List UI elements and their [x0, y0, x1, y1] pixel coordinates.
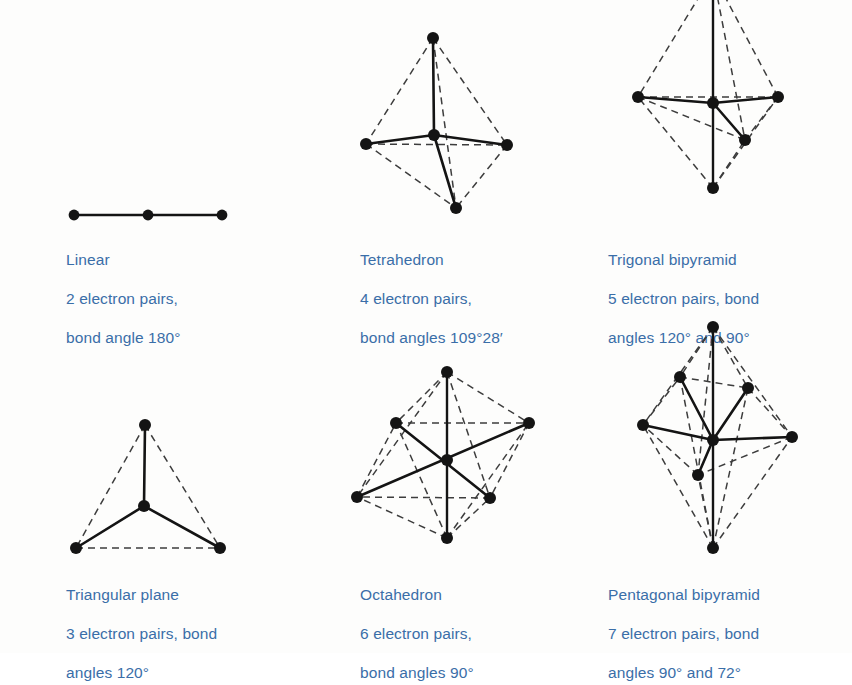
pbp-vertex-equatorial-front	[692, 469, 704, 481]
pbp-vertex-center	[707, 434, 719, 446]
caption-line-2: 7 electron pairs, bond	[608, 624, 760, 644]
pentagonal-bipyramid-diagram	[600, 320, 830, 560]
pbp-vertex-axial-bottom	[707, 542, 719, 554]
caption-line-1: Pentagonal bipyramid	[608, 585, 760, 605]
caption-line-3: bond angles 90°	[360, 663, 474, 683]
pbp-equatorial-backright-right	[748, 388, 792, 437]
pbp-vertex-equatorial-back-right	[742, 382, 754, 394]
pbp-vertex-equatorial-right	[786, 431, 798, 443]
pbp-edge-top-front	[698, 327, 713, 475]
pbp-vertex-axial-top	[707, 321, 719, 333]
pbp-edge-bottom-left	[643, 425, 713, 548]
pbp-equatorial-front-left	[643, 425, 698, 475]
caption-line-3: angles 120°	[66, 663, 217, 683]
caption-pentagonal-bipyramid: Pentagonal bipyramid 7 electron pairs, b…	[608, 565, 760, 685]
pbp-vertex-equatorial-left	[637, 419, 649, 431]
pbp-edge-bottom-front	[698, 475, 713, 548]
pbp-vertex-equatorial-back-left	[674, 371, 686, 383]
caption-line-3: angles 90° and 72°	[608, 663, 760, 683]
pbp-edge-top-back-right	[713, 327, 748, 388]
pbp-bond-right	[713, 437, 792, 440]
pbp-bond-back-left	[680, 377, 713, 440]
